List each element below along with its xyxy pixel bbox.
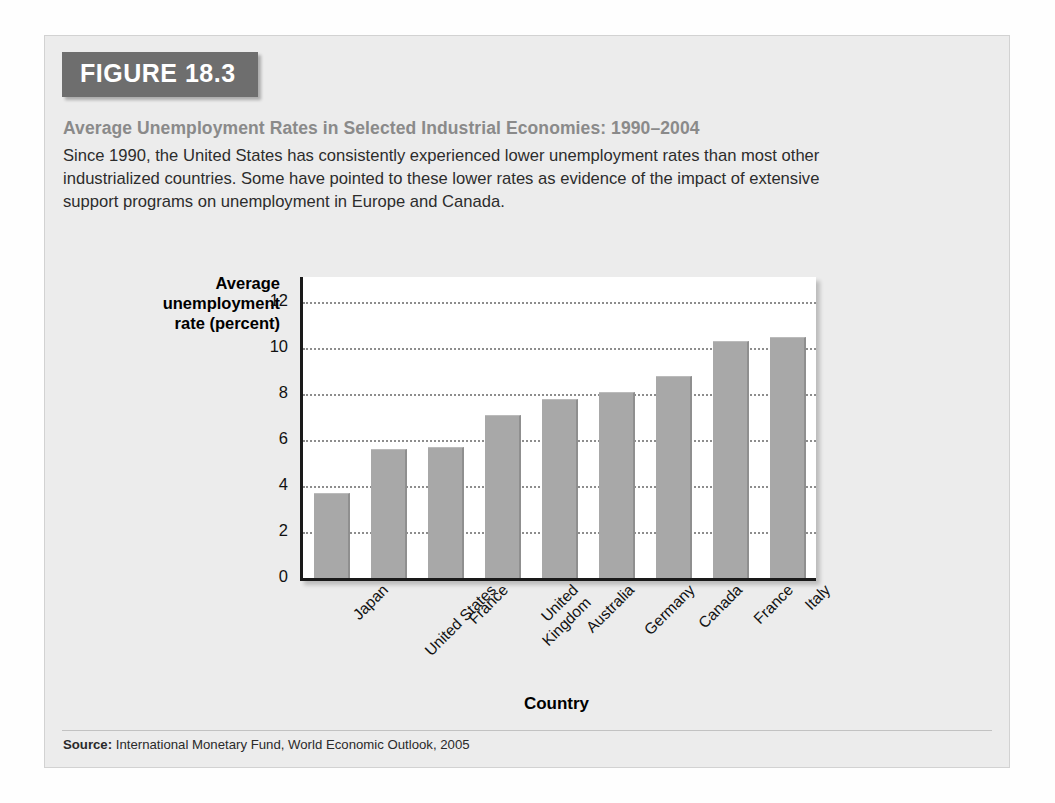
bar-united-states-1[interactable]	[371, 449, 407, 578]
bar-united-kingdom-3[interactable]	[485, 415, 521, 578]
bar-slot	[360, 277, 417, 578]
y-tick-label-6: 6	[242, 429, 288, 448]
x-tick-label-italy-8: Italy	[801, 581, 834, 614]
source-divider	[62, 730, 992, 731]
x-tick-label-germany-5: Germany	[640, 581, 698, 639]
bar-series	[303, 277, 816, 578]
plot-area	[300, 277, 816, 581]
y-tick-label-2: 2	[242, 521, 288, 540]
bar-slot	[588, 277, 645, 578]
bar-slot	[702, 277, 759, 578]
source-line: Source: International Monetary Fund, Wor…	[63, 737, 470, 752]
bar-canada-6[interactable]	[656, 376, 692, 578]
figure-card: FIGURE 18.3 Average Unemployment Rates i…	[44, 35, 1010, 768]
bar-japan-0[interactable]	[314, 493, 350, 578]
source-label: Source:	[63, 737, 112, 752]
x-tick-label-canada-6: Canada	[694, 581, 745, 632]
bar-slot	[417, 277, 474, 578]
chart-container: Average unemployment rate (percent) 0246…	[45, 36, 1011, 769]
y-tick-label-0: 0	[242, 567, 288, 586]
bar-germany-5[interactable]	[599, 392, 635, 578]
source-text: International Monetary Fund, World Econo…	[116, 737, 470, 752]
figure-page: FIGURE 18.3 Average Unemployment Rates i…	[0, 0, 1055, 803]
bar-slot	[474, 277, 531, 578]
bar-france-2[interactable]	[428, 447, 464, 578]
bar-france-7[interactable]	[713, 341, 749, 578]
x-tick-label-france-7: France	[750, 581, 797, 628]
x-axis-title: Country	[524, 694, 589, 713]
y-tick-label-4: 4	[242, 475, 288, 494]
y-tick-label-10: 10	[242, 337, 288, 356]
bar-slot	[645, 277, 702, 578]
y-tick-label-8: 8	[242, 383, 288, 402]
bar-slot	[759, 277, 816, 578]
bar-slot	[303, 277, 360, 578]
y-tick-label-12: 12	[242, 291, 288, 310]
y-axis-label-line-3: rate (percent)	[115, 313, 280, 333]
bar-slot	[531, 277, 588, 578]
bar-italy-8[interactable]	[770, 337, 806, 578]
x-tick-label-japan-0: Japan	[349, 581, 391, 623]
x-tick-label-united-kingdom-3: United Kingdom	[525, 581, 593, 649]
bar-australia-4[interactable]	[542, 399, 578, 578]
x-axis-title-wrap: Country	[300, 694, 813, 714]
x-axis-ticks: JapanUnited StatesFranceUnited KingdomAu…	[300, 581, 813, 681]
y-axis-label-line-1: Average	[115, 273, 280, 293]
